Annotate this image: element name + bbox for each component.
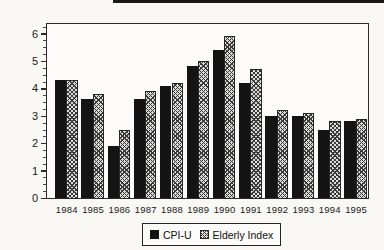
y-axis-minor-tick (43, 102, 46, 103)
y-axis-minor-tick (43, 109, 46, 110)
bar-cpi-u-1987 (134, 99, 145, 198)
y-axis-minor-tick (43, 191, 46, 192)
scan-artifact-line (113, 0, 384, 3)
bar-elderly-index-1993 (303, 113, 314, 198)
bar-cpi-u-1986 (108, 146, 119, 198)
y-axis-label-0: 0 (16, 193, 38, 204)
y-axis-tick-3 (41, 116, 47, 118)
y-axis-minor-tick (43, 82, 46, 83)
plot-area (46, 23, 369, 199)
bar-elderly-index-1989 (198, 61, 209, 198)
bar-cpi-u-1992 (265, 116, 276, 198)
y-axis-tick-5 (41, 61, 47, 63)
y-axis-tick-6 (41, 33, 47, 35)
legend-swatch-cpi-u (150, 230, 159, 239)
y-axis-minor-tick (43, 130, 46, 131)
y-axis-tick-2 (41, 143, 47, 145)
y-axis-minor-tick (43, 184, 46, 185)
bar-elderly-index-1986 (119, 130, 130, 199)
y-axis-label-2: 2 (16, 138, 38, 149)
bar-cpi-u-1990 (213, 50, 224, 198)
bar-cpi-u-1991 (239, 83, 250, 198)
bar-cpi-u-1985 (81, 99, 92, 198)
y-axis-label-6: 6 (16, 29, 38, 40)
bar-cpi-u-1993 (292, 116, 303, 198)
y-axis-minor-tick (43, 75, 46, 76)
y-axis-label-4: 4 (16, 83, 38, 94)
y-axis-minor-tick (43, 54, 46, 55)
legend-label-cpi-u: CPI-U (163, 229, 192, 241)
y-axis-minor-tick (43, 123, 46, 124)
y-axis-label-1: 1 (16, 166, 38, 177)
x-axis-label-1995: 1995 (340, 205, 372, 215)
bar-cpi-u-1988 (160, 86, 171, 198)
bar-elderly-index-1990 (224, 36, 235, 198)
bar-cpi-u-1994 (318, 130, 329, 199)
y-axis-minor-tick (43, 157, 46, 158)
bar-elderly-index-1991 (250, 69, 261, 198)
y-axis-minor-tick (43, 95, 46, 96)
y-axis-minor-tick (43, 177, 46, 178)
bar-elderly-index-1995 (356, 119, 367, 198)
legend: CPI-U Elderly Index (142, 223, 281, 246)
y-axis-tick-4 (41, 88, 47, 90)
legend-swatch-elderly-index (200, 230, 209, 239)
y-axis-minor-tick (43, 150, 46, 151)
bar-elderly-index-1988 (172, 83, 183, 198)
bar-elderly-index-1984 (66, 80, 77, 198)
y-axis-minor-tick (43, 27, 46, 28)
bar-cpi-u-1989 (187, 66, 198, 198)
y-axis-minor-tick (43, 40, 46, 41)
y-axis-label-5: 5 (16, 56, 38, 67)
legend-label-elderly-index: Elderly Index (213, 229, 274, 241)
y-axis-tick-0 (41, 198, 47, 200)
bar-elderly-index-1992 (277, 110, 288, 198)
bar-elderly-index-1987 (145, 91, 156, 198)
bar-elderly-index-1994 (329, 121, 340, 198)
y-axis-minor-tick (43, 136, 46, 137)
bar-elderly-index-1985 (93, 94, 104, 198)
chart-figure: 0123456 19841985198619871988198919901991… (0, 0, 384, 250)
bar-cpi-u-1984 (55, 80, 66, 198)
y-axis-label-3: 3 (16, 111, 38, 122)
y-axis-minor-tick (43, 164, 46, 165)
bar-cpi-u-1995 (344, 121, 355, 198)
y-axis-tick-1 (41, 170, 47, 172)
y-axis-minor-tick (43, 68, 46, 69)
y-axis-minor-tick (43, 47, 46, 48)
